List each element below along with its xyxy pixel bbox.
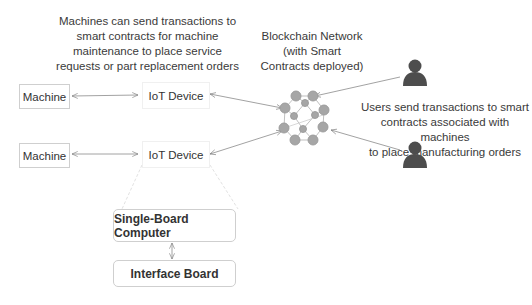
blockchain-network-icon	[279, 91, 329, 145]
machine-label: Machine	[23, 150, 66, 162]
arrow-iot1-network	[210, 94, 282, 108]
network-node	[291, 91, 301, 101]
user-icon	[403, 60, 427, 87]
iot-device-label: IoT Device	[149, 149, 204, 161]
iot-device-box-2: IoT Device	[142, 141, 210, 168]
diagram-connectors	[0, 0, 532, 305]
network-node	[302, 100, 309, 107]
arrow-machine1-iot1	[72, 95, 138, 96]
network-node	[308, 135, 318, 145]
network-node	[312, 112, 319, 119]
iot-device-box-1: IoT Device	[142, 82, 210, 109]
machine-box-2: Machine	[19, 143, 70, 168]
arrow-user1-network	[315, 77, 400, 96]
network-node	[308, 91, 318, 101]
network-node	[290, 135, 300, 145]
network-node	[318, 122, 328, 132]
machine-box-1: Machine	[19, 84, 70, 109]
interface-board-box: Interface Board	[113, 260, 236, 287]
interface-board-label: Interface Board	[130, 267, 218, 281]
network-node	[279, 123, 289, 133]
machine-label: Machine	[23, 91, 66, 103]
network-node	[280, 103, 290, 113]
network-node	[319, 105, 329, 115]
iot-device-label: IoT Device	[149, 90, 204, 102]
detail-line-right	[210, 165, 238, 209]
user-icon	[403, 142, 427, 169]
arrow-user2-network	[331, 130, 400, 150]
single-board-computer-label: Single-Board Computer	[114, 212, 235, 240]
network-node	[300, 126, 307, 133]
network-node	[291, 113, 298, 120]
arrow-iot2-network	[210, 131, 282, 154]
detail-line-left	[122, 165, 142, 209]
single-board-computer-box: Single-Board Computer	[113, 209, 236, 242]
